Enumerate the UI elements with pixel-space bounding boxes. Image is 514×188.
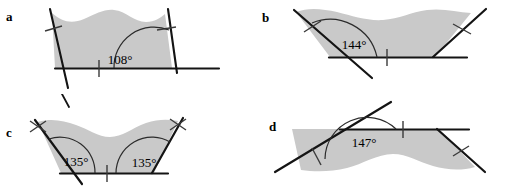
figure-b: 144° — [257, 0, 514, 94]
angle-label-a: 108° — [108, 52, 133, 67]
panel-d: d 147° — [257, 94, 514, 188]
panel-b: b 144° — [257, 0, 514, 94]
shaded-region-b — [296, 9, 471, 57]
angle-label-d: 147° — [352, 135, 377, 150]
figure-d: 147° — [257, 94, 514, 188]
stray-stroke-c — [62, 94, 69, 107]
shaded-region-d — [292, 129, 475, 171]
figure-page: a 108° b — [0, 0, 514, 188]
angle-label-c-left: 135° — [64, 154, 89, 169]
angle-label-c-right: 135° — [132, 155, 157, 170]
panel-c: c 135° 135° — [0, 94, 257, 188]
panel-a: a 108° — [0, 0, 257, 94]
figure-c: 135° 135° — [0, 94, 257, 188]
angle-label-b: 144° — [342, 37, 367, 52]
figure-a: 108° — [0, 0, 257, 94]
